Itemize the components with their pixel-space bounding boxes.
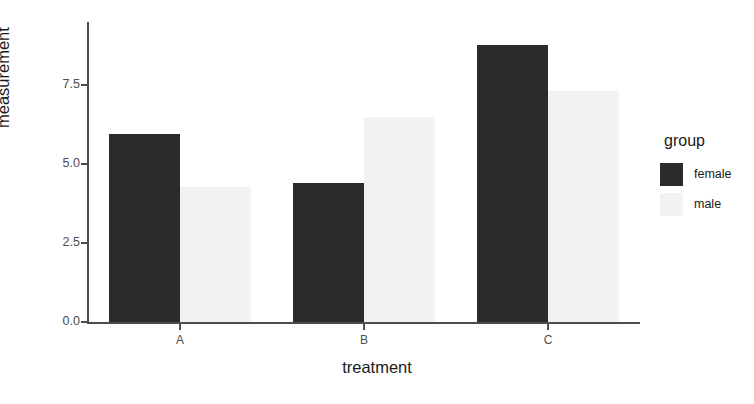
y-tick-label: 2.5: [34, 236, 80, 249]
legend-label-male: male: [694, 197, 721, 211]
y-tick-mark: [81, 242, 87, 244]
bar-C-male: [548, 91, 619, 322]
y-tick-mark: [81, 84, 87, 86]
y-axis-line: [87, 22, 89, 323]
legend-swatch-female: [660, 163, 683, 186]
bar-B-male: [364, 117, 435, 322]
x-tick-mark: [363, 324, 365, 330]
bar-B-female: [293, 183, 364, 322]
bar-A-male: [180, 187, 251, 322]
y-tick-label: 5.0: [34, 157, 80, 170]
y-tick-mark: [81, 321, 87, 323]
bar-C-female: [477, 45, 548, 322]
x-tick-label: A: [150, 334, 210, 346]
legend-item-female[interactable]: female: [660, 159, 754, 189]
legend-title: group: [664, 132, 754, 150]
legend: group female male: [660, 132, 754, 219]
y-tick-label: 0.0: [34, 315, 80, 328]
x-axis-title: treatment: [0, 358, 754, 377]
legend-label-female: female: [694, 167, 732, 181]
y-axis-title: measurement: [0, 27, 13, 128]
bar-A-female: [109, 134, 180, 322]
legend-swatch-male: [660, 193, 683, 216]
y-tick-label: 7.5: [34, 78, 80, 91]
legend-item-male[interactable]: male: [660, 189, 754, 219]
y-tick-mark: [81, 163, 87, 165]
x-tick-label: B: [334, 334, 394, 346]
x-tick-mark: [547, 324, 549, 330]
chart-root: 0.02.55.07.5 ABC measurement treatment g…: [0, 0, 754, 404]
x-tick-label: C: [518, 334, 578, 346]
x-tick-mark: [179, 324, 181, 330]
